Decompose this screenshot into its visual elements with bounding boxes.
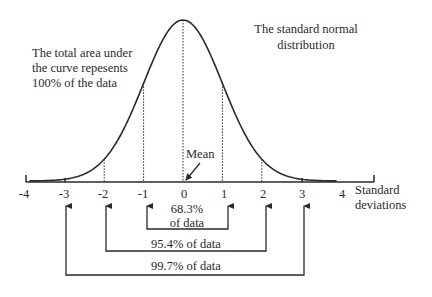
- title-line2: distribution: [277, 38, 335, 52]
- tick-label: 3: [299, 187, 305, 201]
- axis-label-line2: deviations: [355, 198, 407, 212]
- bracket-two-sigma-label: 95.4% of data: [151, 237, 221, 251]
- sigma-guides: [104, 20, 262, 182]
- bracket-one-sigma-line2: of data: [170, 216, 205, 230]
- normal-distribution-diagram: -4 -3 -2 -1 0 1 2 3 4 Standard deviation…: [0, 0, 432, 297]
- tick-label: 2: [260, 187, 266, 201]
- tick-label: -2: [98, 187, 108, 201]
- bracket-one-sigma-line1: 68.3%: [171, 202, 203, 216]
- tick-label: 4: [339, 187, 346, 201]
- tick-label: 1: [221, 187, 227, 201]
- mean-label: Mean: [186, 147, 215, 161]
- tick-label: 0: [181, 187, 187, 201]
- bracket-three-sigma-label: 99.7% of data: [151, 259, 221, 273]
- area-note-line3: 100% of the data: [32, 76, 117, 90]
- area-note-line1: The total area under: [32, 46, 133, 60]
- tick-label: -4: [19, 187, 30, 201]
- tick-label: -1: [138, 187, 148, 201]
- tick-label: -3: [59, 187, 69, 201]
- axis-label-line1: Standard: [355, 183, 400, 197]
- title-line1: The standard normal: [254, 22, 358, 36]
- tick-labels: -4 -3 -2 -1 0 1 2 3 4: [19, 187, 346, 201]
- area-note-line2: the curve repesents: [32, 61, 128, 75]
- mean-arrow-icon: [186, 163, 200, 180]
